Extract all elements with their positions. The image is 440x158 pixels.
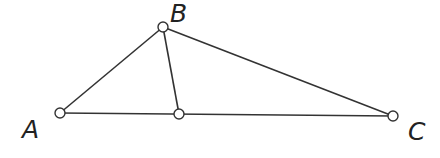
segment-ac bbox=[60, 113, 393, 116]
segment-bd bbox=[163, 27, 179, 114]
point-b bbox=[158, 22, 168, 32]
label-a: A bbox=[20, 115, 39, 144]
point-c bbox=[388, 111, 398, 121]
segment-bc bbox=[163, 27, 393, 116]
triangle-diagram: A B C bbox=[0, 0, 440, 158]
segment-ab bbox=[60, 27, 163, 113]
label-c: C bbox=[408, 117, 426, 146]
label-b: B bbox=[170, 0, 187, 28]
point-a bbox=[55, 108, 65, 118]
point-d bbox=[174, 109, 184, 119]
